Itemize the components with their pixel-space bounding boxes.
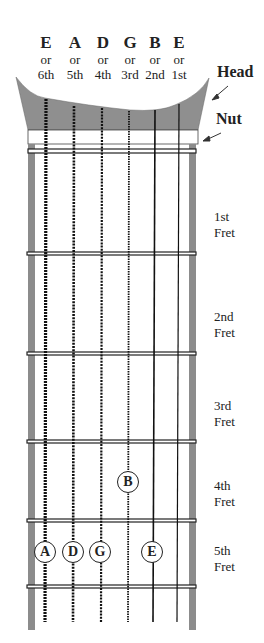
fret-label-3: 3rd Fret xyxy=(214,398,235,430)
note-marker-b: B xyxy=(117,471,139,493)
fretboard-rail-right xyxy=(189,144,196,630)
fret-word: Fret xyxy=(214,325,235,341)
head-label: Head xyxy=(217,63,253,81)
note-marker-e: E xyxy=(141,541,163,563)
fret-number: 1st xyxy=(214,209,235,225)
fret-number: 3rd xyxy=(214,398,235,414)
fret-label-5: 5th Fret xyxy=(214,543,235,575)
fret-number: 2nd xyxy=(214,309,235,325)
note-marker-d: D xyxy=(62,541,84,563)
fretboard-rail-left xyxy=(28,144,35,630)
nut-label: Nut xyxy=(216,110,242,128)
note-marker-g: G xyxy=(89,541,111,563)
fret-label-1: 1st Fret xyxy=(214,209,235,241)
fret-word: Fret xyxy=(214,225,235,241)
note-marker-a: A xyxy=(34,541,56,563)
nut xyxy=(28,130,198,144)
fret-label-4: 4th Fret xyxy=(214,478,235,510)
fret-word: Fret xyxy=(214,559,235,575)
fret-number: 5th xyxy=(214,543,235,559)
fret-word: Fret xyxy=(214,414,235,430)
fret-word: Fret xyxy=(214,494,235,510)
fret-lines xyxy=(27,252,196,588)
fret-number: 4th xyxy=(214,478,235,494)
fret-label-2: 2nd Fret xyxy=(214,309,235,341)
